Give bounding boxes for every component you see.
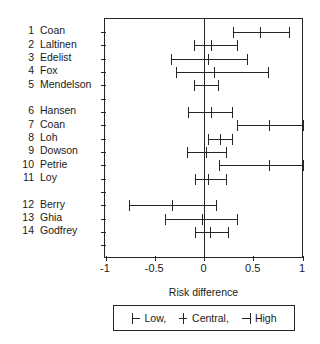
interval-high-cap [237,214,238,225]
interval-central-marker [206,147,207,158]
interval-low-cap [187,147,188,158]
study-number: 10 [14,158,34,171]
study-name: Dowson [40,144,78,157]
interval-high-cap [247,54,248,65]
study-number: 4 [14,64,34,77]
interval-bar [195,45,237,46]
interval-bar [177,72,269,73]
y-axis-tick [101,245,106,246]
x-axis-title: Risk difference [104,286,303,298]
interval-high-cap [303,160,304,171]
interval-central-marker [208,174,209,185]
interval-bar [196,232,229,233]
legend-item-central: Central, [179,312,229,324]
x-axis-tick-label: -0.5 [145,262,164,274]
study-name: Laltinen [40,38,77,51]
interval-central-marker [202,214,203,225]
interval-low-cap [171,54,172,65]
confidence-interval [105,214,302,225]
study-name: Fox [40,64,58,77]
x-axis-tick-label: 0 [200,262,206,274]
plus-center-icon [179,313,188,324]
x-axis-tick [106,256,107,261]
legend-label-high: High [255,312,277,324]
confidence-interval [105,67,302,78]
x-axis-tick-labels: -1-0.500.51 [104,262,303,278]
study-name: Ghia [40,211,62,224]
interval-central-marker [172,200,173,211]
study-number: 7 [14,118,34,131]
study-name: Coan [40,24,65,37]
interval-central-marker [211,40,212,51]
study-number: 2 [14,38,34,51]
confidence-interval [105,120,302,131]
legend: Low, Central, High [113,305,295,331]
study-number: 14 [14,224,34,237]
interval-low-cap [188,107,189,118]
study-number: 12 [14,198,34,211]
right-cap-icon [242,313,251,324]
interval-bar [171,59,248,60]
study-number: 6 [14,104,34,117]
x-axis-tick-label: -1 [100,262,110,274]
interval-bar [219,165,303,166]
interval-low-cap [129,200,130,211]
confidence-interval [105,40,302,51]
interval-central-marker [210,227,211,238]
interval-low-cap [165,214,166,225]
interval-central-marker [214,67,215,78]
study-name: Berry [40,198,65,211]
x-axis-tick [303,256,304,261]
plot-area [104,18,303,258]
forest-plot-figure: 1Coan2Laltinen3Edelist4Fox5Mendelson6Han… [0,0,320,344]
legend-label-central: Central, [192,312,229,324]
study-name: Loy [40,171,57,184]
interval-bar [195,85,219,86]
interval-central-marker [220,134,221,145]
interval-low-cap [195,227,196,238]
interval-low-cap [195,174,196,185]
interval-high-cap [232,134,233,145]
y-axis-tick [101,99,106,100]
study-number: 1 [14,24,34,37]
confidence-interval [105,134,302,145]
interval-high-cap [226,174,227,185]
study-name: Loh [40,131,58,144]
confidence-interval [105,227,302,238]
interval-high-cap [226,147,227,158]
study-number: 8 [14,131,34,144]
interval-low-cap [194,40,195,51]
study-name: Godfrey [40,224,77,237]
interval-central-marker [269,160,270,171]
study-number: 9 [14,144,34,157]
confidence-interval [105,27,302,38]
interval-bar [196,179,227,180]
interval-low-cap [233,27,234,38]
confidence-interval [105,200,302,211]
study-name: Hansen [40,104,76,117]
interval-central-marker [260,27,261,38]
interval-low-cap [176,67,177,78]
interval-high-cap [216,200,217,211]
interval-high-cap [237,40,238,51]
x-axis-tick [204,256,205,261]
interval-high-cap [218,80,219,91]
study-number: 11 [14,171,34,184]
study-number: 3 [14,51,34,64]
y-axis-tick [101,192,106,193]
interval-central-marker [208,54,209,65]
interval-low-cap [237,120,238,131]
left-cap-icon [132,313,141,324]
confidence-interval [105,107,302,118]
study-number: 5 [14,78,34,91]
interval-central-marker [211,107,212,118]
confidence-interval [105,54,302,65]
interval-high-cap [268,67,269,78]
confidence-interval [105,147,302,158]
study-name: Mendelson [40,78,91,91]
interval-central-marker [269,120,270,131]
interval-high-cap [232,107,233,118]
study-number: 13 [14,211,34,224]
interval-high-cap [303,120,304,131]
study-name: Coan [40,118,65,131]
